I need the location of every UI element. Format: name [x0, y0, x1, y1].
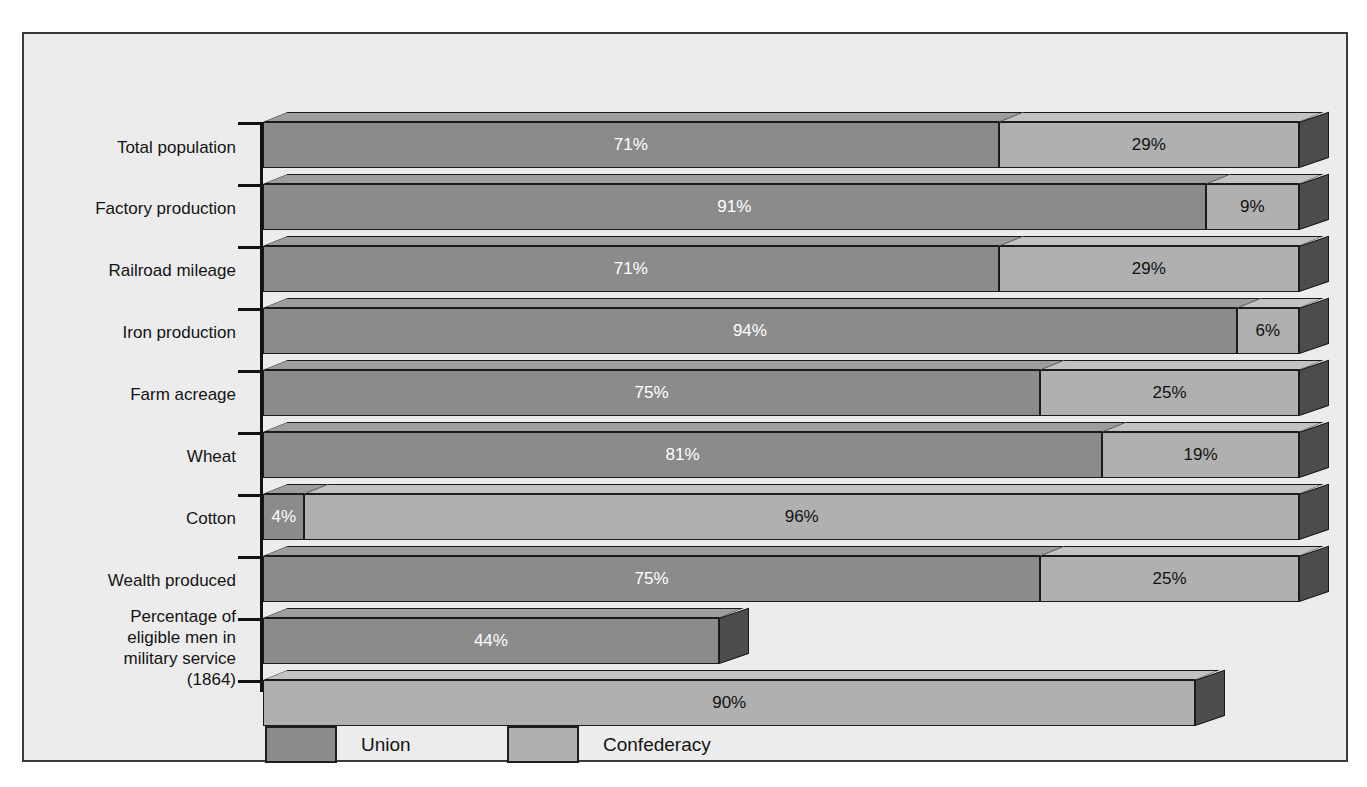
legend-swatch-union	[265, 726, 337, 763]
chart-legend: Union Confederacy	[24, 34, 1346, 760]
chart-frame: Total population Factory production Rail…	[22, 32, 1348, 762]
legend-label-confederacy: Confederacy	[603, 734, 711, 756]
legend-swatch-confederacy	[507, 726, 579, 763]
legend-label-union: Union	[361, 734, 411, 756]
